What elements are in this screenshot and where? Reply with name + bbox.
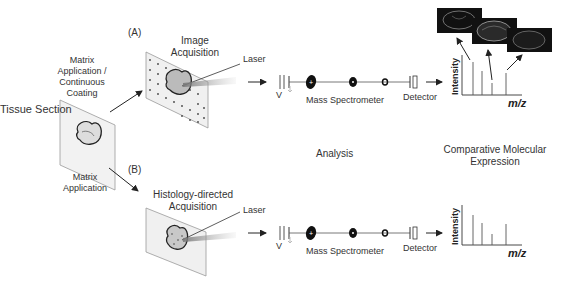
svg-text:+: +: [309, 230, 313, 237]
analysis-column-label: Analysis: [316, 148, 353, 160]
svg-text:+: +: [309, 79, 313, 86]
matrix-application-coating-label: Matrix Application / Continuous Coating: [52, 55, 112, 99]
detector-label-b: Detector: [403, 243, 437, 254]
mass-spectrometer-label-b: Mass Spectrometer: [306, 246, 384, 257]
spectrum-b-y-label: Intensity: [450, 208, 460, 245]
comparative-expression-label: Comparative Molecular Expression: [430, 144, 560, 168]
image-acquisition-label: Image Acquisition: [163, 35, 227, 59]
diagram-canvas: + +: [0, 0, 571, 286]
voltage-label-a: V: [276, 90, 282, 101]
pathway-b-tag: (B): [128, 164, 141, 176]
laser-label-b: Laser: [243, 205, 266, 216]
spectrum-b-x-label: m/z: [508, 247, 526, 259]
laser-label-a: Laser: [243, 54, 266, 65]
arrow-to-image-acquisition: [110, 91, 142, 112]
histology-plate: [146, 208, 206, 276]
matrix-application-label: Matrix Application: [62, 172, 108, 194]
detector-label-a: Detector: [403, 92, 437, 103]
pathway-a-tag: (A): [128, 27, 141, 39]
spectrum-a-y-label: Intensity: [450, 58, 460, 95]
spectrum-a: [462, 55, 522, 95]
histology-acquisition-label: Histology-directed Acquisition: [148, 189, 238, 213]
tissue-section-label: Tissue Section: [0, 102, 72, 116]
image-acquisition-plate: [146, 52, 208, 128]
mass-spectrometer-label-a: Mass Spectrometer: [306, 95, 384, 106]
spectrum-b: [462, 205, 522, 245]
spectrum-a-x-label: m/z: [508, 97, 526, 109]
ion-images: [437, 8, 552, 52]
voltage-label-b: V: [276, 241, 282, 252]
